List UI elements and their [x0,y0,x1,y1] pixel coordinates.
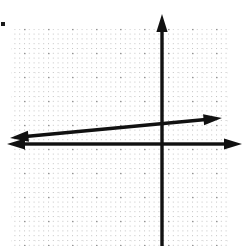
grid-major-col [156,29,158,246]
grid-major-col [60,29,62,246]
grid-major-col [204,29,206,246]
grid-major-row [12,173,228,175]
grid-major-row [12,197,228,199]
graph-figure: Coordinate plane with a line graphed [0,0,245,246]
grid-major-row [12,29,228,31]
grid-major-col [84,29,86,246]
grid-major-row [12,101,228,103]
y-axis-line [160,22,163,246]
grid-major-col [180,29,182,246]
x-axis-line [14,142,232,145]
grid-major-row [12,149,228,151]
grid-major-row [12,77,228,79]
grid-major-col [132,29,134,246]
corner-dot-marker [1,22,5,26]
grid-major-col [108,29,110,246]
grid-major-row [12,53,228,55]
grid-layer [12,29,230,246]
grid-minor-dots [12,29,228,246]
coordinate-plane [0,0,245,246]
grid-major-col [36,29,38,246]
grid-major-row [12,221,228,223]
grid-major-col [228,29,230,246]
